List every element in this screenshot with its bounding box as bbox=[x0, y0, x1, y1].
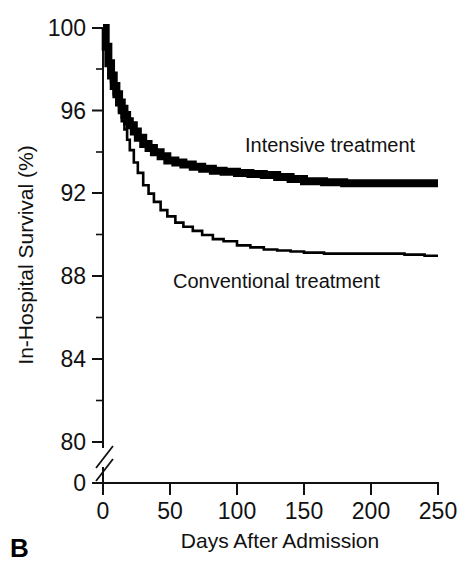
y-tick-label-96: 96 bbox=[60, 98, 86, 124]
y-tick-label-84: 84 bbox=[60, 346, 86, 372]
x-tick-label-100: 100 bbox=[218, 498, 256, 524]
chart-svg: 100 96 92 88 84 80 0 In-Hospital Surviva… bbox=[0, 0, 466, 566]
x-tick-label-150: 150 bbox=[285, 498, 323, 524]
y-tick-label-88: 88 bbox=[60, 263, 86, 289]
curve-intensive-treatment bbox=[103, 28, 438, 183]
x-tick-label-0: 0 bbox=[97, 498, 110, 524]
axis-break-slash-upper bbox=[96, 446, 113, 468]
label-intensive-treatment: Intensive treatment bbox=[245, 134, 416, 156]
x-tick-label-50: 50 bbox=[157, 498, 183, 524]
series-annotations: Intensive treatment Conventional treatme… bbox=[173, 134, 416, 292]
y-tick-label-0: 0 bbox=[73, 470, 86, 496]
x-tick-label-200: 200 bbox=[352, 498, 390, 524]
x-axis-title: Days After Admission bbox=[181, 529, 379, 552]
y-tick-label-100: 100 bbox=[48, 15, 86, 41]
y-tick-label-92: 92 bbox=[60, 180, 86, 206]
survival-curve-figure: 100 96 92 88 84 80 0 In-Hospital Surviva… bbox=[0, 0, 466, 566]
x-tick-label-250: 250 bbox=[419, 498, 457, 524]
panel-label-b: B bbox=[10, 533, 29, 563]
y-tick-label-80: 80 bbox=[60, 429, 86, 455]
y-axis-title: In-Hospital Survival (%) bbox=[14, 145, 37, 364]
y-axis-group: 100 96 92 88 84 80 0 In-Hospital Surviva… bbox=[14, 15, 113, 496]
axis-break-slash-lower bbox=[96, 459, 113, 481]
x-axis-group: 0 50 100 150 200 250 Days After Admissio… bbox=[97, 483, 458, 552]
label-conventional-treatment: Conventional treatment bbox=[173, 270, 380, 292]
